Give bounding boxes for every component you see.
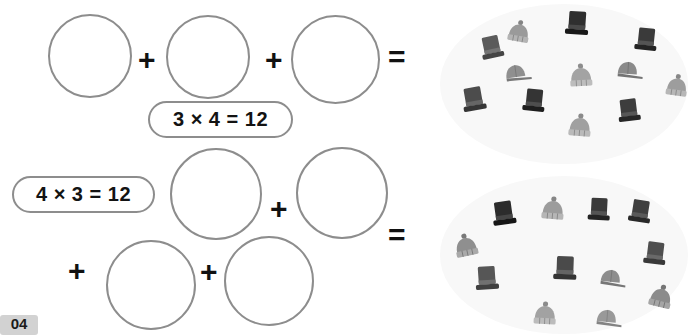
top-hat-icon [560,8,594,42]
plus-operator-r2-2: + [200,257,218,287]
plus-operator-r2-1: + [68,256,86,286]
equation-row-1: + + = 3 × 4 = 12 [0,0,440,145]
answer-circle-r2-1[interactable] [170,148,262,240]
answer-circle-r2-3[interactable] [106,240,196,330]
equation-pill-4x3[interactable]: 4 × 3 = 12 [12,176,155,213]
equation-pill-3x4[interactable]: 3 × 4 = 12 [148,101,293,138]
answer-circle-r1-1[interactable] [48,14,132,98]
beanie-icon [662,71,691,101]
hat-cluster-top [440,4,688,164]
top-hat-icon [623,196,657,230]
beanie-icon [538,194,568,224]
top-hat-icon [630,25,663,58]
top-hat-icon [549,254,582,287]
beanie-icon [449,229,482,262]
plus-operator-r1-2: + [265,45,283,75]
top-hat-icon [638,238,671,271]
cap-icon [591,307,625,332]
answer-circle-r1-3[interactable] [291,15,380,104]
beanie-icon [644,280,678,314]
top-hat-icon [583,195,615,227]
answer-circle-r2-4[interactable] [224,236,314,326]
answer-circle-r1-2[interactable] [166,15,250,99]
cap-icon [500,61,535,87]
cap-icon [612,59,645,83]
equals-operator-r1: = [388,42,406,72]
top-hat-icon [518,86,551,119]
cap-icon [595,266,629,291]
plus-operator-r1-1: + [138,45,156,75]
plus-operator-r2-3: + [270,194,288,224]
beanie-icon [504,17,535,48]
hat-cluster-bottom [440,176,688,334]
page-number-badge: 04 [0,315,38,335]
beanie-icon [565,111,595,141]
worksheet-canvas: + + = 3 × 4 = 12 4 × 3 = 12 + = + + 04 [0,0,691,335]
equals-operator-r2: = [388,220,406,250]
top-hat-icon [456,83,492,119]
beanie-icon [530,299,559,328]
top-hat-icon [612,95,645,128]
answer-circle-r2-2[interactable] [296,147,388,239]
equation-row-2: 4 × 3 = 12 + = + + [0,145,440,335]
beanie-icon [566,61,595,90]
top-hat-icon [486,197,522,233]
top-hat-icon [470,263,504,297]
